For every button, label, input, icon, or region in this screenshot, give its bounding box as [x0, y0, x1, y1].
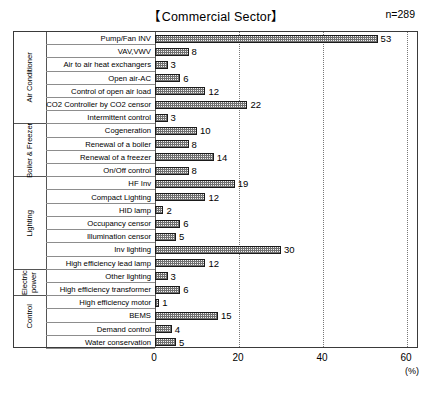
bar [155, 312, 218, 320]
bar-value-label: 5 [179, 230, 184, 243]
bar-value-label: 6 [183, 72, 188, 85]
bar-value-label: 5 [179, 336, 184, 349]
bar [155, 259, 205, 267]
bar-row: Illumination censor5 [46, 230, 417, 243]
group-label-text: Lighting [26, 210, 35, 237]
bar-value-label: 6 [183, 217, 188, 230]
bar-value-label: 3 [171, 58, 176, 71]
bar-category-label: HF Inv [46, 177, 151, 190]
bar-category-label: On/Off control [46, 164, 151, 177]
bar [155, 272, 168, 280]
bar-category-label: VAV,VWV [46, 45, 151, 58]
bar-category-label: BEMS [46, 309, 151, 322]
bar-category-label: Occupancy censor [46, 217, 151, 230]
bar [155, 101, 247, 109]
bar-category-label: Renewal of a freezer [46, 151, 151, 164]
bar-plot-area: 22 [155, 98, 417, 111]
bar [155, 61, 168, 69]
bar-plot-area: 6 [155, 283, 417, 296]
bar [155, 74, 180, 82]
bar-row: Water conservation5 [46, 336, 417, 349]
chart-title: 【Commercial Sector】 [0, 6, 433, 25]
bar-value-label: 10 [200, 124, 211, 137]
bar-value-label: 12 [208, 85, 219, 98]
bar-plot-area: 4 [155, 323, 417, 336]
x-axis-tick-60: 60 [400, 352, 411, 363]
plot-frame: Air ConditionerBoiler & FreezerLightingE… [13, 31, 418, 348]
bar-value-label: 53 [381, 32, 392, 45]
bar-plot-area: 14 [155, 151, 417, 164]
bar-category-label: CO2 Controller by CO2 censor [46, 98, 151, 111]
bar [155, 299, 159, 307]
bar [155, 193, 205, 201]
bar-category-label: Inv lighting [46, 243, 151, 256]
bar [155, 233, 176, 241]
bar-category-label: HID lamp [46, 204, 151, 217]
bar-plot-area: 3 [155, 270, 417, 283]
bar-value-label: 8 [192, 45, 197, 58]
bar-value-label: 6 [183, 283, 188, 296]
bar-row: Control of open air load12 [46, 85, 417, 98]
bar-row: Intermittent control3 [46, 111, 417, 124]
bar-plot-area: 3 [155, 111, 417, 124]
bar-row: Cogeneration10 [46, 124, 417, 137]
bar [155, 87, 205, 95]
bar-value-label: 2 [166, 204, 171, 217]
bar [155, 48, 189, 56]
bar-category-label: Other lighting [46, 270, 151, 283]
bar-category-label: Air to air heat exchangers [46, 58, 151, 71]
bar-value-label: 8 [192, 138, 197, 151]
bar-plot-area: 8 [155, 45, 417, 58]
bar-row: Open air-AC6 [46, 72, 417, 85]
bar-value-label: 3 [171, 111, 176, 124]
bar [155, 35, 378, 43]
bar-value-label: 3 [171, 270, 176, 283]
bar [155, 338, 176, 346]
bar-plot-area: 19 [155, 177, 417, 190]
bar-row: HID lamp2 [46, 204, 417, 217]
x-axis-tick-20: 20 [232, 352, 243, 363]
bar-value-label: 1 [162, 296, 167, 309]
bar-row: High efficiency transformer6 [46, 283, 417, 296]
bar-row: High efficiency motor1 [46, 296, 417, 309]
bar-row: Pump/Fan INV53 [46, 32, 417, 45]
bar-row: Demand control4 [46, 323, 417, 336]
bar [155, 167, 189, 175]
bar-row: CO2 Controller by CO2 censor22 [46, 98, 417, 111]
group-label-text: Boiler & Freezer [26, 123, 35, 178]
chart-root: 【Commercial Sector】 n=289 Air Conditione… [0, 0, 433, 393]
bar [155, 206, 163, 214]
bar-category-label: Pump/Fan INV [46, 32, 151, 45]
bar-value-label: 4 [175, 323, 180, 336]
bar-row: Other lighting3 [46, 270, 417, 283]
bar-row: VAV,VWV8 [46, 45, 417, 58]
bar-row: Renewal of a boiler8 [46, 138, 417, 151]
bar-plot-area: 12 [155, 191, 417, 204]
bar-plot-area: 12 [155, 257, 417, 270]
x-axis-tick-0: 0 [151, 352, 157, 363]
group-label-text: Air Conditioner [26, 53, 35, 103]
bar-plot-area: 1 [155, 296, 417, 309]
x-axis-unit-label: (%) [405, 366, 419, 376]
bar-category-label: Control of open air load [46, 85, 151, 98]
bar-row: HF Inv19 [46, 177, 417, 190]
bar-category-label: High efficiency transformer [46, 283, 151, 296]
bar-value-label: 19 [238, 177, 249, 190]
bar-category-label: Open air-AC [46, 72, 151, 85]
bar-row: BEMS15 [46, 309, 417, 322]
bar-row: High efficiency lead lamp12 [46, 257, 417, 270]
bar [155, 140, 189, 148]
bar-plot-area: 30 [155, 243, 417, 256]
x-axis-tick-40: 40 [316, 352, 327, 363]
bar-plot-area: 5 [155, 230, 417, 243]
bar-row: Occupancy censor6 [46, 217, 417, 230]
bar-plot-area: 6 [155, 217, 417, 230]
group-label-air-conditioner: Air Conditioner [14, 32, 46, 124]
bar-category-label: Intermittent control [46, 111, 151, 124]
bar-plot-area: 10 [155, 124, 417, 137]
group-label-control: Control [14, 296, 46, 336]
group-label-boiler-freezer: Boiler & Freezer [14, 124, 46, 177]
bar-value-label: 15 [221, 309, 232, 322]
bar-row: Inv lighting30 [46, 243, 417, 256]
bar-row: On/Off control8 [46, 164, 417, 177]
